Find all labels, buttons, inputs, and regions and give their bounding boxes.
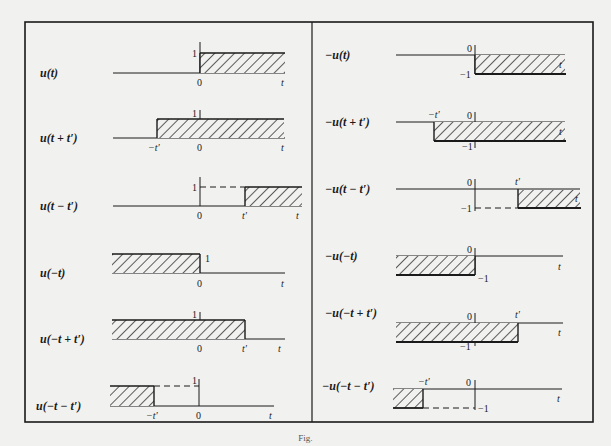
tick-tprime: t′ — [242, 343, 248, 354]
tick-zero: 0 — [466, 377, 471, 388]
tick-one: 1 — [205, 253, 210, 264]
tick-zero: 0 — [467, 110, 472, 121]
tick-t: t — [269, 410, 272, 421]
tick-one: 1 — [192, 375, 197, 386]
tick-zero: 0 — [197, 77, 202, 88]
plot-neg-u-t-minus-tp: −u(t − t′) 0 t′ −1 t — [325, 176, 581, 214]
tick-neg-tprime: −t′ — [418, 376, 431, 387]
tick-zero: 0 — [197, 278, 202, 289]
plot-label: u(t + t′) — [40, 131, 78, 145]
plot-u-neg-t-minus-tp: u(−t − t′) 1 0 −t′ t — [36, 375, 274, 421]
tick-zero: 0 — [197, 142, 202, 153]
figure-frame — [25, 22, 593, 422]
unit-step-figure: u(t) 1 0 t u(t + t′) 1 0 −t′ t u(t − t′)… — [0, 0, 611, 446]
plot-label: u(t − t′) — [40, 199, 78, 213]
plot-u-neg-t-plus-tp: u(−t + t′) 1 0 t′ t — [40, 309, 285, 354]
plot-label: −u(−t + t′) — [325, 306, 377, 320]
plot-label: u(−t) — [40, 266, 65, 280]
figure-caption: Fig. — [0, 433, 611, 443]
plot-neg-u-neg-t: −u(−t) 0 −1 t — [325, 244, 563, 284]
plot-label: u(−t − t′) — [36, 399, 81, 413]
plot-neg-u-t-plus-tp: −u(t + t′) 0 −t′ −1 t — [325, 109, 566, 152]
plot-neg-u-t: −u(t) 0 −1 t — [325, 43, 566, 80]
tick-one: 1 — [192, 48, 197, 59]
tick-one: 1 — [192, 182, 197, 193]
tick-zero: 0 — [467, 43, 472, 54]
plot-u-t-plus-tp: u(t + t′) 1 0 −t′ t — [40, 108, 285, 153]
tick-zero: 0 — [467, 311, 472, 322]
tick-zero: 0 — [197, 343, 202, 354]
plot-neg-u-neg-t-minus-tp: −u(−t − t′) 0 −t′ −1 t — [322, 376, 562, 414]
tick-t: t — [281, 142, 284, 153]
tick-t: t — [559, 126, 562, 137]
plot-u-t-minus-tp: u(t − t′) 1 0 t′ t — [40, 177, 302, 221]
plot-label: −u(t + t′) — [325, 115, 370, 129]
tick-t: t — [557, 393, 560, 404]
tick-neg-tprime: −t′ — [428, 109, 441, 120]
tick-zero: 0 — [196, 410, 201, 421]
tick-t: t — [558, 327, 561, 338]
tick-neg-one: −1 — [460, 69, 471, 80]
tick-zero: 0 — [467, 177, 472, 188]
tick-tprime: t′ — [515, 176, 521, 187]
tick-neg-tprime: −t′ — [146, 410, 159, 421]
tick-neg-one: −1 — [460, 341, 471, 352]
tick-one: 1 — [192, 309, 197, 320]
plot-label: u(t) — [40, 66, 58, 80]
tick-t: t — [278, 343, 281, 354]
tick-neg-tprime: −t′ — [148, 142, 161, 153]
plot-label: u(−t + t′) — [40, 332, 85, 346]
tick-t: t — [281, 278, 284, 289]
tick-tprime: t′ — [515, 309, 521, 320]
plot-label: −u(t) — [325, 48, 350, 62]
tick-neg-one: −1 — [461, 203, 472, 214]
plot-label: −u(−t − t′) — [322, 379, 375, 393]
plot-label: −u(t − t′) — [325, 182, 370, 196]
tick-neg-one: −1 — [462, 141, 473, 152]
plot-u-t: u(t) 1 0 t — [40, 42, 285, 88]
tick-one: 1 — [192, 108, 197, 119]
tick-neg-one: −1 — [478, 273, 489, 284]
plot-u-neg-t: u(−t) 1 0 t — [40, 253, 285, 289]
plot-neg-u-neg-t-plus-tp: −u(−t + t′) 0 t′ −1 t — [325, 306, 563, 352]
tick-neg-one: −1 — [478, 403, 489, 414]
tick-zero: 0 — [467, 244, 472, 255]
tick-t: t — [575, 193, 578, 204]
tick-t: t — [559, 59, 562, 70]
tick-t: t — [558, 261, 561, 272]
tick-zero: 0 — [197, 210, 202, 221]
tick-tprime: t′ — [242, 210, 248, 221]
tick-t: t — [281, 77, 284, 88]
plot-label: −u(−t) — [325, 249, 358, 263]
tick-t: t — [296, 210, 299, 221]
